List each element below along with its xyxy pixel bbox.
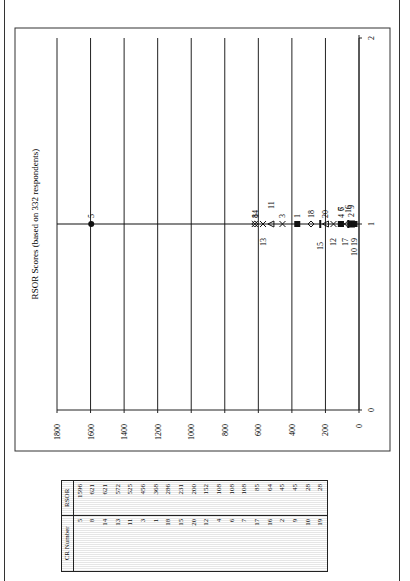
table-row: 11525 bbox=[124, 481, 137, 571]
table-row: 1785 bbox=[251, 481, 264, 571]
y-tick-label: 1600 bbox=[87, 424, 96, 440]
point-label: 13 bbox=[259, 238, 268, 246]
y-tick-label: 400 bbox=[288, 424, 297, 436]
table-row: 13572 bbox=[112, 481, 125, 571]
cell-cr-number: 11 bbox=[124, 515, 137, 571]
point-label: 18 bbox=[307, 210, 316, 218]
point-label: 17 bbox=[341, 238, 350, 246]
cell-rsor: 456 bbox=[137, 481, 150, 515]
point-label: 15 bbox=[316, 242, 325, 250]
marker-square-icon bbox=[294, 221, 300, 227]
cell-cr-number: 2 bbox=[276, 515, 289, 571]
point-label: 19 bbox=[350, 238, 359, 246]
point-label: 20 bbox=[321, 210, 330, 218]
y-tick-label: 1000 bbox=[187, 424, 196, 440]
table-row: 18286 bbox=[162, 481, 175, 571]
point-label: 4 bbox=[337, 214, 346, 218]
cell-rsor: 231 bbox=[175, 481, 188, 515]
cell-cr-number: 1 bbox=[150, 515, 163, 571]
cell-rsor: 621 bbox=[99, 481, 112, 515]
y-tick-label: 200 bbox=[321, 424, 330, 436]
cell-cr-number: 17 bbox=[251, 515, 264, 571]
cell-cr-number: 12 bbox=[200, 515, 213, 571]
y-tick-label: 800 bbox=[221, 424, 230, 436]
table-row: 1028 bbox=[302, 481, 315, 571]
cell-cr-number: 14 bbox=[99, 515, 112, 571]
cell-cr-number: 5 bbox=[73, 515, 86, 571]
cell-cr-number: 20 bbox=[188, 515, 201, 571]
point-label: 14 bbox=[251, 210, 260, 218]
y-tick-label: 1200 bbox=[154, 424, 163, 440]
table-row: 1928 bbox=[314, 481, 327, 571]
point-label: 11 bbox=[267, 201, 276, 209]
cell-rsor: 572 bbox=[112, 481, 125, 515]
cell-rsor: 200 bbox=[188, 481, 201, 515]
point-label: 1 bbox=[293, 214, 302, 218]
marker-circle-icon bbox=[88, 221, 94, 227]
x-tick-label: 1 bbox=[367, 222, 376, 226]
table-row: 15231 bbox=[175, 481, 188, 571]
point-label: 3 bbox=[278, 214, 287, 218]
y-tick-label: 600 bbox=[254, 424, 263, 436]
point-label: 12 bbox=[329, 238, 338, 246]
cell-cr-number: 7 bbox=[238, 515, 251, 571]
table-row: 51596 bbox=[73, 481, 86, 571]
point-label: 9 bbox=[347, 205, 356, 209]
header-rsor: RSOR bbox=[62, 481, 73, 515]
header-cr-number: CR Number bbox=[62, 515, 73, 571]
cell-cr-number: 4 bbox=[213, 515, 226, 571]
table-row: 12152 bbox=[200, 481, 213, 571]
cell-cr-number: 3 bbox=[137, 515, 150, 571]
cell-rsor: 368 bbox=[150, 481, 163, 515]
data-table: CR Number RSOR 5159686211462113572115253… bbox=[61, 480, 328, 572]
table-row: 20200 bbox=[188, 481, 201, 571]
y-tick-label: 0 bbox=[355, 424, 364, 428]
cell-rsor: 85 bbox=[251, 481, 264, 515]
cell-rsor: 108 bbox=[226, 481, 239, 515]
cell-cr-number: 10 bbox=[302, 515, 315, 571]
cell-rsor: 152 bbox=[200, 481, 213, 515]
x-tick-label: 2 bbox=[367, 36, 376, 40]
cell-rsor: 621 bbox=[86, 481, 99, 515]
cell-cr-number: 15 bbox=[175, 515, 188, 571]
y-tick-label: 1400 bbox=[120, 424, 129, 440]
cell-cr-number: 6 bbox=[226, 515, 239, 571]
cell-cr-number: 16 bbox=[264, 515, 277, 571]
table-row: 14621 bbox=[99, 481, 112, 571]
point-label: 5 bbox=[87, 214, 96, 218]
cell-rsor: 28 bbox=[314, 481, 327, 515]
marker-square-icon bbox=[351, 221, 357, 227]
table-row: 1664 bbox=[264, 481, 277, 571]
cell-rsor: 45 bbox=[289, 481, 302, 515]
table-row: 7108 bbox=[238, 481, 251, 571]
table-row: 3456 bbox=[137, 481, 150, 571]
point-label: 2 bbox=[347, 213, 356, 217]
y-tick-label: 1800 bbox=[53, 424, 62, 440]
table-row: 4108 bbox=[213, 481, 226, 571]
table-row: 8621 bbox=[86, 481, 99, 571]
table-row: 6108 bbox=[226, 481, 239, 571]
cell-rsor: 45 bbox=[276, 481, 289, 515]
cell-cr-number: 19 bbox=[314, 515, 327, 571]
rotated-page: RSOR Scores (based on 332 respondents)02… bbox=[0, 0, 410, 581]
cell-cr-number: 8 bbox=[86, 515, 99, 571]
cell-rsor: 28 bbox=[302, 481, 315, 515]
chart-title: RSOR Scores (based on 332 respondents) bbox=[30, 149, 40, 300]
cell-rsor: 64 bbox=[264, 481, 277, 515]
cell-cr-number: 9 bbox=[289, 515, 302, 571]
point-label: 10 bbox=[350, 248, 359, 256]
table-row: 245 bbox=[276, 481, 289, 571]
table-row: 1368 bbox=[150, 481, 163, 571]
cell-rsor: 286 bbox=[162, 481, 175, 515]
cell-rsor: 525 bbox=[124, 481, 137, 515]
cell-rsor: 108 bbox=[238, 481, 251, 515]
cell-rsor: 1596 bbox=[73, 481, 86, 515]
cell-cr-number: 13 bbox=[112, 515, 125, 571]
cell-cr-number: 18 bbox=[162, 515, 175, 571]
table-body: 5159686211462113572115253456136818286152… bbox=[73, 481, 327, 571]
table-row: 945 bbox=[289, 481, 302, 571]
cell-rsor: 108 bbox=[213, 481, 226, 515]
x-tick-label: 0 bbox=[367, 408, 376, 412]
